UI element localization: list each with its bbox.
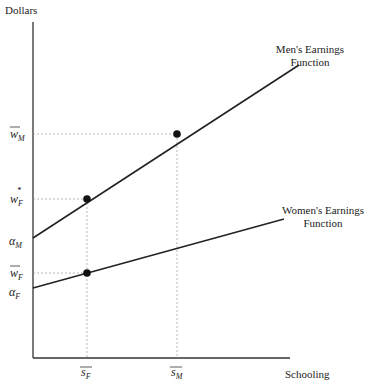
women-label-line1: Women's Earnings <box>282 204 364 216</box>
svg-text:wF: wF <box>10 266 23 282</box>
women-earnings-line <box>33 219 284 288</box>
point-women-sF <box>83 269 91 277</box>
svg-text:αM: αM <box>9 234 23 250</box>
x-axis-label: Schooling <box>285 368 330 380</box>
men-label-line2: Function <box>290 56 330 68</box>
xtick-sM: sM <box>170 365 184 381</box>
men-label-line1: Men's Earnings <box>276 43 344 55</box>
svg-text:αF: αF <box>9 285 20 301</box>
earnings-diagram: Dollars Schooling Men's Earnings Functio… <box>0 0 374 389</box>
ytick-wFstar: wF * <box>10 186 23 208</box>
point-men-sF <box>83 195 91 203</box>
svg-text:wM: wM <box>10 127 26 143</box>
ytick-alphaF: αF <box>9 285 20 301</box>
men-earnings-line <box>33 65 299 238</box>
ytick-alphaM: αM <box>9 234 23 250</box>
ytick-wF: wF <box>10 266 23 282</box>
svg-text:*: * <box>17 186 21 195</box>
women-label-line2: Function <box>303 217 343 229</box>
ytick-wM: wM <box>10 127 26 143</box>
point-men-sM <box>173 130 181 138</box>
y-axis-label: Dollars <box>5 4 37 16</box>
xtick-sF: sF <box>80 365 92 381</box>
